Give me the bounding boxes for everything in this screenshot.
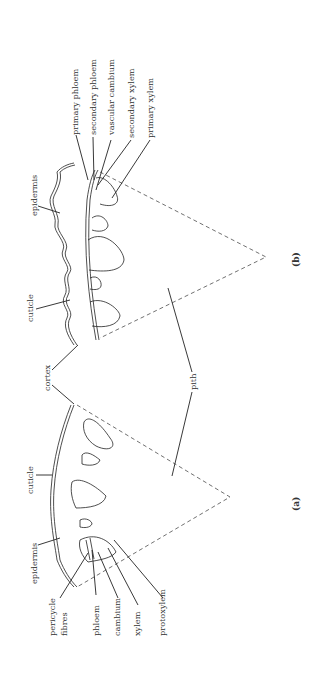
caption-a: (a) [291,497,301,511]
pith-boundary-b [100,172,266,338]
vascular-bundle-b3 [88,237,124,271]
label-cortex: cortex [42,364,52,391]
label-xylem-a: xylem [132,611,142,636]
vascular-bundle-a2 [82,453,100,465]
label-cuticle-a: cuticle [25,466,35,494]
label-protoxylem: protoxylem [157,589,167,636]
cambium-band-a5 [90,538,94,559]
vascular-bundle-a3 [71,480,106,508]
vascular-bundle-a4 [80,519,92,528]
vascular-bundle-a1 [84,419,113,449]
labels: epidermis primary phloem secondary phloe… [25,59,301,636]
panel-b [50,163,266,345]
leader-lines [36,135,192,605]
label-primary-xylem: primary xylem [145,78,155,138]
epidermis-outline-b [53,165,77,345]
label-cambium-a: cambium [112,598,122,636]
caption-b: (b) [291,252,301,267]
vascular-bundle-b1 [96,178,118,206]
label-pericycle: pericycle [47,598,57,636]
label-pith: pith [188,373,198,390]
stem-cross-section-diagram: epidermis primary phloem secondary phloe… [0,0,321,684]
label-phloem-a: phloem [91,605,101,636]
cambium-ring-b [89,170,99,340]
label-vascular-cambium: vascular cambium [106,59,116,136]
panel-a [51,405,230,587]
label-fibres: fibres [59,612,69,636]
label-secondary-xylem: secondary xylem [126,68,136,138]
phloem-band-a5 [86,540,90,560]
label-epidermis-a: epidermis [29,543,39,584]
label-primary-phloem: primary phloem [70,69,80,135]
label-epidermis-b: epidermis [29,175,39,216]
vascular-bundle-b2 [92,216,108,231]
label-secondary-phloem: secondary phloem [88,59,98,135]
label-cuticle-b: cuticle [25,294,35,322]
